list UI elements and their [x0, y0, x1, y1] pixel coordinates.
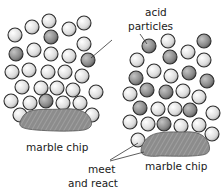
acid-particles-label-line1: acid [145, 6, 167, 18]
acid-left-leader-line [91, 40, 112, 58]
left-acid-particles [4, 14, 103, 122]
meet-label-line2: and react [68, 177, 118, 189]
right-acid-particles [123, 34, 220, 147]
meet-label-line1: meet [88, 163, 115, 175]
right-marble-chip [141, 132, 210, 157]
acid-particles-label-line2: particles [128, 20, 173, 32]
marble-chip-label-right: marble chip [145, 160, 207, 172]
left-marble-chip [20, 109, 92, 131]
marble-chip-label-left: marble chip [26, 141, 88, 153]
